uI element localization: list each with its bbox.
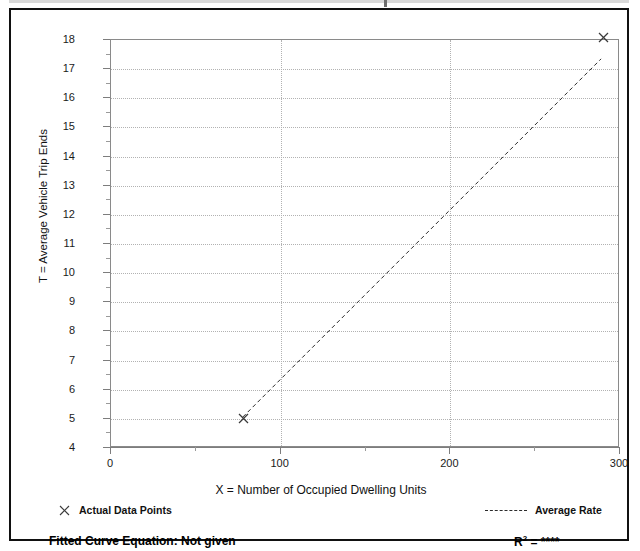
y-tick-label-10: 10	[35, 267, 75, 278]
x-tick-200	[449, 447, 450, 454]
x-cross-icon	[59, 505, 70, 516]
r-squared-number: = ****	[527, 535, 559, 549]
data-point-x-marker	[238, 413, 249, 424]
y-tick-label-14: 14	[35, 151, 75, 162]
y-tick-13	[103, 185, 110, 186]
y-tick-label-16: 16	[35, 92, 75, 103]
y-tick-label-15: 15	[35, 121, 75, 132]
chart-footer: Fitted Curve Equation: Not given R2 = **…	[11, 534, 631, 551]
x-tick-label-0: 0	[80, 458, 140, 469]
x-tick-minor-150	[365, 447, 366, 451]
y-tick-10	[103, 272, 110, 273]
y-tick-9	[103, 301, 110, 302]
x-tick-100	[280, 447, 281, 454]
x-tick-300	[619, 447, 620, 454]
y-tick-label-4: 4	[35, 442, 75, 453]
y-tick-label-13: 13	[35, 180, 75, 191]
plot-area	[110, 39, 619, 447]
legend-item-average-rate: Average Rate	[485, 504, 602, 516]
scan-edge-artifact	[9, 0, 629, 3]
y-tick-label-9: 9	[35, 296, 75, 307]
y-tick-label-11: 11	[35, 238, 75, 249]
y-tick-label-8: 8	[35, 325, 75, 336]
y-tick-14	[103, 156, 110, 157]
y-tick-4	[103, 447, 110, 448]
y-tick-18	[103, 39, 110, 40]
legend-label-actual-data-points: Actual Data Points	[79, 504, 172, 516]
y-tick-label-6: 6	[35, 384, 75, 395]
y-tick-label-18: 18	[35, 34, 75, 45]
data-point-x-marker	[598, 32, 609, 43]
dashed-line-icon	[485, 510, 527, 511]
y-tick-label-7: 7	[35, 355, 75, 366]
x-tick-label-200: 200	[419, 458, 479, 469]
chart-figure-frame: T = Average Vehicle Trip Ends 4567891011…	[9, 8, 629, 541]
y-tick-label-17: 17	[35, 63, 75, 74]
y-tick-17	[103, 68, 110, 69]
scan-edge-tick	[384, 0, 387, 7]
y-tick-label-12: 12	[35, 209, 75, 220]
y-tick-15	[103, 126, 110, 127]
y-tick-7	[103, 360, 110, 361]
chart-legend: Actual Data Points Average Rate	[11, 504, 631, 522]
legend-label-average-rate: Average Rate	[535, 504, 602, 516]
r-squared-value: R2 = ****	[514, 534, 559, 549]
average-rate-trend-line	[111, 40, 618, 446]
y-tick-16	[103, 97, 110, 98]
y-tick-12	[103, 214, 110, 215]
y-tick-8	[103, 330, 110, 331]
x-tick-label-100: 100	[250, 458, 310, 469]
x-tick-minor-50	[195, 447, 196, 451]
x-axis-title: X = Number of Occupied Dwelling Units	[11, 483, 631, 497]
r-squared-prefix: R	[514, 535, 523, 549]
x-tick-minor-250	[534, 447, 535, 451]
y-tick-6	[103, 389, 110, 390]
y-tick-5	[103, 418, 110, 419]
x-tick-0	[110, 447, 111, 454]
legend-item-actual-data-points: Actual Data Points	[59, 504, 172, 516]
fitted-curve-equation: Fitted Curve Equation: Not given	[49, 534, 236, 548]
y-tick-11	[103, 243, 110, 244]
x-tick-label-300: 300	[589, 458, 640, 469]
y-tick-label-5: 5	[35, 413, 75, 424]
